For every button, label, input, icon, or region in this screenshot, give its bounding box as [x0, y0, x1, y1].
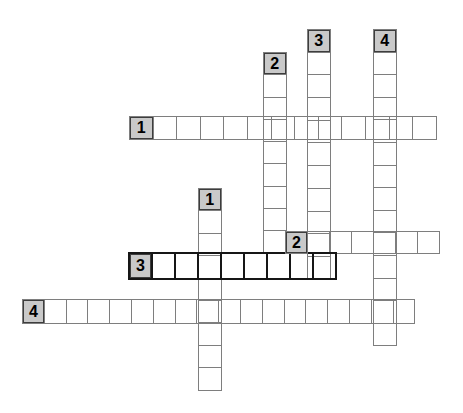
clue-number-cell-down-4[interactable]: 4: [373, 29, 397, 53]
word-down-2: 2: [263, 52, 287, 254]
clue-number-label-down-1: 1: [205, 192, 214, 208]
letter-cell-across-3-6[interactable]: [266, 252, 291, 280]
letter-cell-across-3-8[interactable]: [312, 252, 337, 280]
letter-cell-across-4-15[interactable]: [349, 299, 372, 324]
letter-cell-down-4-11[interactable]: [373, 278, 397, 302]
letter-cell-down-3-1[interactable]: [307, 52, 331, 76]
letter-cell-down-3-6[interactable]: [307, 165, 331, 189]
letter-cell-down-4-8[interactable]: [373, 210, 397, 234]
letter-cell-across-4-4[interactable]: [109, 299, 132, 324]
clue-number-cell-down-3[interactable]: 3: [307, 29, 331, 53]
clue-number-label-down-4: 4: [380, 33, 389, 49]
letter-cell-down-4-13[interactable]: [373, 323, 397, 347]
word-across-3: 3: [128, 252, 337, 280]
letter-cell-across-1-10[interactable]: [365, 116, 390, 140]
word-across-4: 4: [22, 299, 415, 324]
letter-cell-down-1-4[interactable]: [198, 278, 222, 301]
letter-cell-down-4-1[interactable]: [373, 52, 397, 76]
clue-number-label-across-2: 2: [292, 235, 301, 251]
letter-cell-down-1-1[interactable]: [198, 210, 222, 233]
letter-cell-down-4-6[interactable]: [373, 165, 397, 189]
clue-number-label-across-1: 1: [137, 120, 146, 136]
letter-cell-across-3-5[interactable]: [243, 252, 268, 280]
letter-cell-across-1-6[interactable]: [271, 116, 296, 140]
crossword-grid: 23411234: [0, 0, 463, 413]
letter-cell-down-2-1[interactable]: [263, 74, 287, 97]
letter-cell-down-1-7[interactable]: [198, 345, 222, 368]
letter-cell-across-3-4[interactable]: [220, 252, 245, 280]
letter-cell-across-4-7[interactable]: [175, 299, 198, 324]
letter-cell-across-3-7[interactable]: [289, 252, 314, 280]
letter-cell-across-1-9[interactable]: [341, 116, 366, 140]
clue-number-label-down-3: 3: [314, 33, 323, 49]
letter-cell-down-2-8[interactable]: [263, 230, 287, 253]
letter-cell-down-3-2[interactable]: [307, 74, 331, 98]
clue-number-label-down-2: 2: [270, 56, 279, 72]
letter-cell-across-3-2[interactable]: [174, 252, 199, 280]
clue-number-label-across-4: 4: [29, 304, 38, 320]
clue-number-cell-across-1[interactable]: 1: [129, 116, 154, 140]
letter-cell-across-2-6[interactable]: [417, 231, 440, 254]
letter-cell-across-4-16[interactable]: [371, 299, 394, 324]
letter-cell-across-1-4[interactable]: [223, 116, 248, 140]
letter-cell-down-2-5[interactable]: [263, 163, 287, 186]
letter-cell-across-1-12[interactable]: [412, 116, 437, 140]
letter-cell-across-4-8[interactable]: [196, 299, 219, 324]
letter-cell-across-4-5[interactable]: [131, 299, 154, 324]
letter-cell-across-4-6[interactable]: [153, 299, 176, 324]
letter-cell-across-4-9[interactable]: [218, 299, 241, 324]
letter-cell-across-3-3[interactable]: [197, 252, 222, 280]
letter-cell-across-4-13[interactable]: [305, 299, 328, 324]
letter-cell-across-1-5[interactable]: [247, 116, 272, 140]
letter-cell-across-1-3[interactable]: [200, 116, 225, 140]
letter-cell-across-1-8[interactable]: [318, 116, 343, 140]
letter-cell-down-4-7[interactable]: [373, 187, 397, 211]
letter-cell-across-4-1[interactable]: [44, 299, 67, 324]
letter-cell-down-3-5[interactable]: [307, 142, 331, 166]
letter-cell-across-4-11[interactable]: [262, 299, 285, 324]
letter-cell-down-1-8[interactable]: [198, 367, 222, 390]
letter-cell-across-4-14[interactable]: [327, 299, 350, 324]
letter-cell-across-4-17[interactable]: [393, 299, 416, 324]
clue-number-cell-down-1[interactable]: 1: [198, 188, 222, 211]
letter-cell-across-2-4[interactable]: [373, 231, 396, 254]
letter-cell-across-2-1[interactable]: [307, 231, 330, 254]
letter-cell-across-2-5[interactable]: [395, 231, 418, 254]
letter-cell-across-1-2[interactable]: [176, 116, 201, 140]
letter-cell-across-4-10[interactable]: [240, 299, 263, 324]
letter-cell-down-2-7[interactable]: [263, 208, 287, 231]
letter-cell-down-3-7[interactable]: [307, 188, 331, 212]
letter-cell-down-1-6[interactable]: [198, 322, 222, 345]
letter-cell-across-1-7[interactable]: [294, 116, 319, 140]
letter-cell-down-4-2[interactable]: [373, 74, 397, 98]
clue-number-cell-across-4[interactable]: 4: [22, 299, 45, 324]
word-across-2: 2: [285, 231, 440, 254]
word-down-1: 1: [198, 188, 222, 391]
letter-cell-across-3-1[interactable]: [151, 252, 176, 280]
letter-cell-across-1-11[interactable]: [389, 116, 414, 140]
letter-cell-down-2-4[interactable]: [263, 141, 287, 164]
letter-cell-across-4-2[interactable]: [66, 299, 89, 324]
clue-number-label-across-3: 3: [136, 258, 145, 274]
letter-cell-down-4-10[interactable]: [373, 255, 397, 279]
letter-cell-across-2-3[interactable]: [351, 231, 374, 254]
letter-cell-across-4-12[interactable]: [284, 299, 307, 324]
clue-number-cell-across-3[interactable]: 3: [128, 252, 153, 280]
clue-number-cell-down-2[interactable]: 2: [263, 52, 287, 75]
word-across-1: 1: [129, 116, 437, 140]
letter-cell-across-2-2[interactable]: [329, 231, 352, 254]
letter-cell-down-2-6[interactable]: [263, 186, 287, 209]
letter-cell-down-4-5[interactable]: [373, 142, 397, 166]
clue-number-cell-across-2[interactable]: 2: [285, 231, 308, 254]
letter-cell-across-1-1[interactable]: [153, 116, 178, 140]
letter-cell-across-4-3[interactable]: [87, 299, 110, 324]
